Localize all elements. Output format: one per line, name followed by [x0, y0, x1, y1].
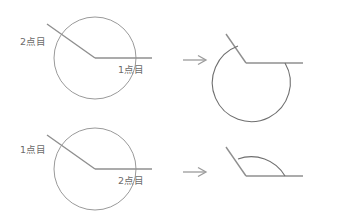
bottom-result-minor-arc [238, 157, 285, 176]
top-result-ray-upper-left [226, 34, 246, 63]
label-top-first-point: 1点目 [118, 64, 144, 75]
diagram-canvas: 2点目 1点目 [0, 0, 349, 222]
bottom-result-figure [226, 147, 303, 176]
angle-order-diagram: 2点目 1点目 [0, 0, 349, 222]
top-result-figure [212, 34, 303, 122]
bottom-source-figure [47, 128, 152, 210]
bottom-result-ray-upper-left [226, 147, 246, 176]
label-top-second-point: 2点目 [20, 36, 46, 47]
row-top: 2点目 1点目 [20, 17, 303, 122]
bottom-arrow-icon [183, 168, 206, 177]
label-bottom-second-point: 2点目 [118, 175, 144, 186]
row-bottom: 1点目 2点目 [20, 128, 303, 210]
top-arrow-icon [183, 56, 206, 65]
top-source-figure [47, 17, 152, 99]
label-bottom-first-point: 1点目 [20, 144, 46, 155]
top-result-reflex-arc [212, 46, 290, 122]
